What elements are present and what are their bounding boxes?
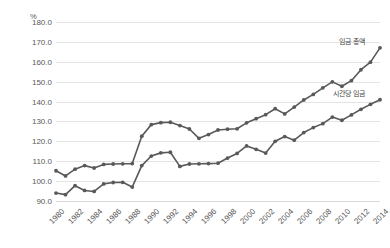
data-point-marker [292,138,296,142]
data-point-marker [73,184,77,188]
y-axis-labels: 180.0170.0160.0150.0140.0130.0120.0110.0… [4,0,52,248]
data-point-marker [92,166,96,170]
data-point-marker [254,117,258,121]
x-axis-tick-label: 2002 [254,207,276,229]
x-axis-tick-label: 2012 [349,207,371,229]
y-axis-tick-label: 150.0 [6,77,52,86]
data-point-marker [111,181,115,185]
data-point-marker [168,150,172,154]
data-point-marker [283,112,287,116]
data-point-marker [226,156,230,160]
x-axis-tick-label: 1992 [159,207,181,229]
x-axis-tick-label: 1996 [197,207,219,229]
data-point-marker [64,193,68,197]
data-point-marker [302,98,306,102]
data-point-marker [216,161,220,165]
data-point-marker [73,167,77,171]
data-point-marker [378,98,382,102]
y-axis-tick-label: 90.0 [6,197,52,206]
data-point-marker [159,121,163,125]
wage-index-line-chart: % 180.0170.0160.0150.0140.0130.0120.0110… [0,0,390,248]
data-point-marker [369,60,373,64]
data-point-marker [64,174,68,178]
data-point-marker [350,79,354,83]
data-point-marker [235,152,239,156]
data-point-marker [54,169,58,173]
x-axis-labels: 1980198219841986198819901992199419961998… [56,203,380,248]
data-point-marker [178,164,182,168]
series-label-total-wage: 임금 총액 [339,36,365,46]
data-point-marker [197,136,201,140]
series-line [56,100,380,195]
data-point-marker [330,115,334,119]
data-point-marker [54,191,58,195]
data-point-marker [350,113,354,117]
gridline [56,201,380,202]
y-axis-tick-label: 110.0 [6,157,52,166]
data-point-marker [254,147,258,151]
series-hourly-wage [54,98,382,197]
data-point-marker [378,46,382,50]
data-point-marker [245,121,249,125]
data-point-marker [330,80,334,84]
data-point-marker [311,93,315,97]
series-total-wage [54,46,382,178]
x-axis-tick-label: 2004 [273,207,295,229]
data-point-marker [121,162,125,166]
data-point-marker [311,126,315,130]
data-point-marker [273,107,277,111]
x-axis-tick-label: 2006 [292,207,314,229]
series-label-hourly-wage: 시간당 임금 [333,88,365,98]
series-line [56,48,380,176]
data-point-marker [369,102,373,106]
data-point-marker [149,123,153,127]
data-point-marker [264,151,268,155]
x-axis-tick-label: 1998 [216,207,238,229]
data-point-marker [178,124,182,128]
data-point-marker [359,107,363,111]
data-point-marker [321,122,325,126]
y-axis-tick-label: 100.0 [6,177,52,186]
data-point-marker [188,127,192,131]
x-axis-tick-label: 1984 [83,207,105,229]
x-axis-tick-label: 2010 [330,207,352,229]
data-point-marker [245,144,249,148]
data-point-marker [216,128,220,132]
data-point-marker [130,162,134,166]
data-point-marker [83,189,87,193]
x-axis-tick-label: 2014 [368,207,390,229]
data-point-marker [207,162,211,166]
data-point-marker [226,127,230,131]
data-point-marker [359,68,363,72]
data-point-marker [273,139,277,143]
y-axis-tick-label: 120.0 [6,137,52,146]
y-axis-tick-label: 170.0 [6,37,52,46]
y-axis-tick-label: 180.0 [6,18,52,27]
data-point-marker [283,135,287,139]
data-point-marker [188,162,192,166]
data-point-marker [321,86,325,90]
x-axis-tick-label: 1990 [140,207,162,229]
data-point-marker [207,133,211,137]
plot-area [56,22,380,201]
data-point-marker [292,105,296,109]
data-point-marker [92,190,96,194]
data-point-marker [159,151,163,155]
data-point-marker [102,163,106,167]
data-point-marker [264,113,268,117]
x-axis-tick-label: 1986 [102,207,124,229]
data-point-marker [168,120,172,124]
series-container [56,22,380,201]
data-point-marker [149,154,153,158]
x-axis-tick-label: 2008 [311,207,333,229]
data-point-marker [340,118,344,122]
data-point-marker [130,185,134,189]
x-axis-tick-label: 1988 [121,207,143,229]
data-point-marker [302,131,306,135]
y-axis-tick-label: 160.0 [6,57,52,66]
data-point-marker [140,164,144,168]
data-point-marker [111,162,115,166]
x-axis-tick-label: 1982 [63,207,85,229]
data-point-marker [83,164,87,168]
x-axis-tick-label: 1994 [178,207,200,229]
